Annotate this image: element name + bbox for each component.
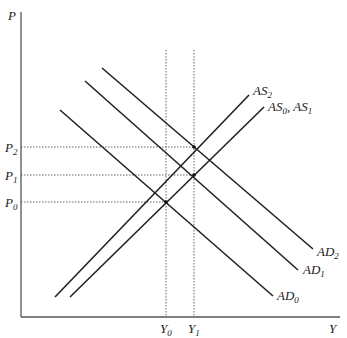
ad2-label: AD2 xyxy=(316,244,339,261)
y-axis-label: P xyxy=(7,8,16,23)
p0-label: P0 xyxy=(4,195,18,212)
ad0-label: AD0 xyxy=(276,288,299,305)
ad1-curve xyxy=(85,81,298,270)
equilibrium-p2 xyxy=(192,145,196,149)
p1-label: P1 xyxy=(4,168,17,185)
p2-label: P2 xyxy=(4,140,18,157)
ad2-curve xyxy=(102,68,313,249)
as-ad-diagram: P Y P2 P1 P0 Y0 Y1 AS2 AS0, AS1 AD2 AD1 … xyxy=(0,0,347,338)
ad1-label: AD1 xyxy=(302,262,325,279)
equilibrium-p0 xyxy=(164,200,168,204)
as2-curve xyxy=(55,95,249,297)
guide-lines xyxy=(21,50,194,317)
y1-label: Y1 xyxy=(188,321,200,338)
x-axis-label: Y xyxy=(329,321,338,336)
as2-label: AS2 xyxy=(252,83,272,100)
equilibrium-p1 xyxy=(192,173,196,177)
y0-label: Y0 xyxy=(160,321,172,338)
as0-as1-label: AS0, AS1 xyxy=(267,99,312,116)
